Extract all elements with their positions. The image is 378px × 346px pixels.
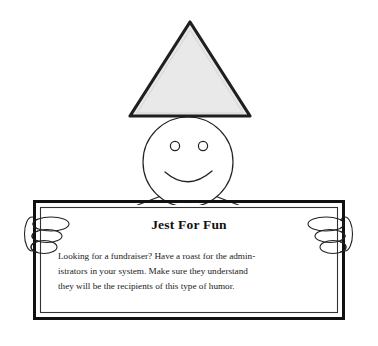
right-eye <box>198 141 207 150</box>
head-group <box>143 117 233 207</box>
head <box>143 117 233 207</box>
party-hat-group <box>130 22 250 116</box>
sign-board <box>35 202 344 319</box>
clipart-illustration <box>0 0 378 346</box>
sign-inner-panel <box>38 205 340 315</box>
party-hat-inner-outline <box>137 30 243 113</box>
left-eye <box>170 141 179 150</box>
